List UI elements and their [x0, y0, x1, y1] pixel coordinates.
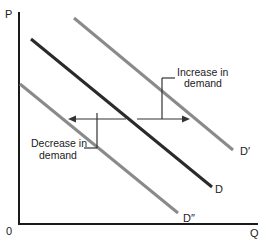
decrease-label-line2: demand [39, 149, 77, 161]
curve-label-d-prime: D′ [240, 145, 250, 157]
decrease-label-line1: Decrease in [31, 137, 87, 149]
curve-label-d: D [215, 183, 223, 195]
curve-label-d-double-prime: D″ [183, 212, 195, 224]
arrowhead-left-icon [68, 116, 76, 123]
arrowhead-right-icon [182, 116, 190, 123]
x-axis-label: Q [250, 227, 259, 239]
demand-shift-chart: P 0 Q D′ D D″ Increase in demand Decreas… [0, 0, 270, 251]
increase-label-line2: demand [184, 77, 222, 89]
demand-curve-d [31, 39, 212, 187]
origin-label: 0 [6, 225, 12, 237]
y-axis-label: P [5, 8, 12, 20]
